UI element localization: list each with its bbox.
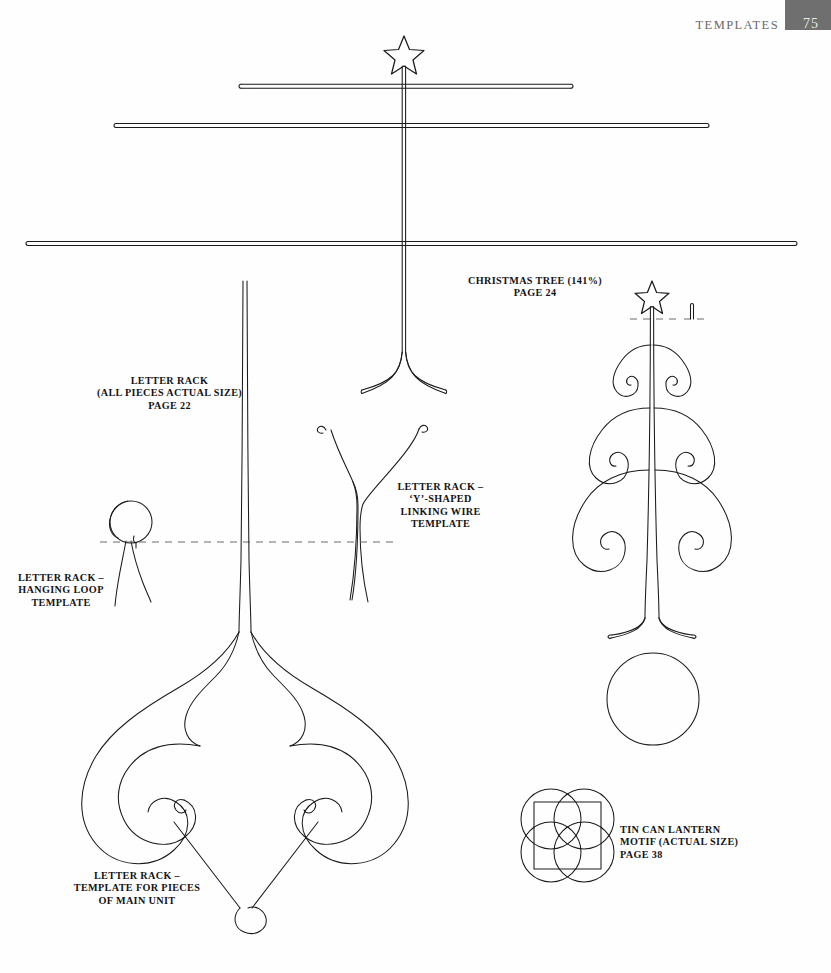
tin-can-lantern-motif bbox=[521, 789, 614, 882]
caption-letter-rack-hanging-loop: LETTER RACK – HANGING LOOP TEMPLATE bbox=[2, 572, 120, 609]
caption-christmas-tree: CHRISTMAS TREE (141%) PAGE 24 bbox=[455, 275, 615, 300]
spiral-icon bbox=[655, 470, 731, 571]
caption-letter-rack-y-wire: LETTER RACK – ‘Y’-SHAPED LINKING WIRE TE… bbox=[378, 481, 503, 531]
caption-letter-rack-main-unit: LETTER RACK – TEMPLATE FOR PIECES OF MAI… bbox=[52, 870, 222, 907]
page-number: 75 bbox=[803, 16, 819, 32]
spiral-icon bbox=[653, 345, 691, 396]
caption-letter-rack-all-pieces: LETTER RACK (ALL PIECES ACTUAL SIZE) PAG… bbox=[82, 375, 257, 412]
christmas-tree-large-template bbox=[26, 36, 797, 394]
caption-tin-can-lantern: TIN CAN LANTERN MOTIF (ACTUAL SIZE) PAGE… bbox=[620, 824, 760, 861]
star-icon bbox=[635, 281, 669, 314]
spiral-icon bbox=[654, 408, 715, 484]
spiral-icon bbox=[613, 345, 651, 396]
running-head: TEMPLATES bbox=[696, 18, 779, 33]
templates-page: TEMPLATES 75 bbox=[0, 0, 831, 973]
circle-icon bbox=[607, 653, 699, 745]
star-icon bbox=[384, 36, 424, 74]
spiral-icon bbox=[589, 408, 650, 484]
christmas-tree-small-figure bbox=[573, 281, 732, 638]
spiral-icon bbox=[573, 470, 649, 571]
